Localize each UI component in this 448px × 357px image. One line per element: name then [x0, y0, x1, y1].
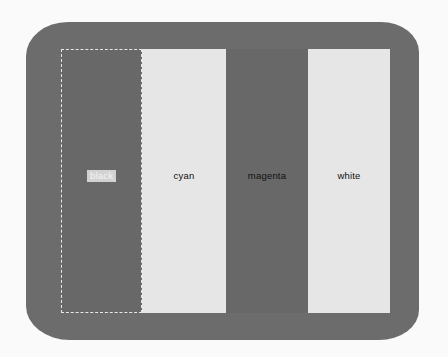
color-bar-white[interactable]: white — [308, 49, 390, 313]
color-bar-label: black — [61, 170, 142, 182]
color-bar-cyan[interactable]: cyan — [142, 49, 226, 313]
color-bar-label: cyan — [142, 170, 226, 181]
color-bar-label: magenta — [226, 170, 308, 181]
color-bar-magenta[interactable]: magenta — [226, 49, 308, 313]
selected-label-chip: black — [87, 170, 116, 182]
color-bar-label: white — [308, 170, 390, 181]
color-bar-black[interactable]: black — [61, 49, 142, 313]
